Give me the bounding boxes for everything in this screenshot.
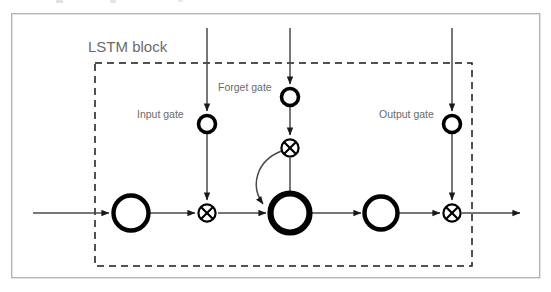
input-multiply-operator [198, 204, 215, 221]
output-gate-label: Output gate [379, 108, 434, 120]
memory-cell-circle [271, 194, 310, 233]
input-gate-circle [199, 116, 216, 133]
forget-gate-label: Forget gate [218, 81, 272, 93]
cropped-caption-remnant [56, 0, 183, 3]
output-squashing-circle [365, 197, 398, 230]
output-gate-circle [444, 116, 461, 133]
lstm-diagram-canvas: LSTM block Input gate Forget gate Output… [0, 0, 551, 292]
lstm-block-title-label: LSTM block [88, 38, 168, 55]
forget-gate-circle [282, 89, 299, 106]
forget-multiply-operator [281, 139, 298, 156]
input-squashing-circle [114, 196, 149, 231]
input-gate-label: Input gate [137, 108, 184, 120]
lstm-block-diagram-svg: LSTM block Input gate Forget gate Output… [0, 0, 551, 292]
output-multiply-operator [443, 204, 460, 221]
